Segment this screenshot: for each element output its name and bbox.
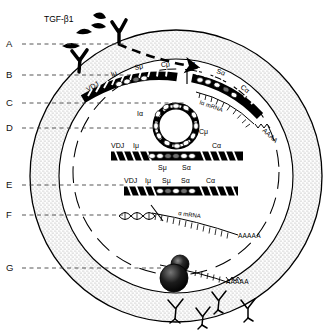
stage-letter-c: C [6, 97, 13, 108]
circle-label-cmu: Cμ [199, 128, 208, 136]
tgf-beta-ligand-group: TGF-β1 [44, 13, 106, 49]
segment-label-vdj: VDJ [111, 142, 124, 149]
ligand-crescent [91, 23, 106, 29]
segment-label-vdj: VDJ [124, 177, 137, 184]
segment-label-salpha: Sα [182, 164, 191, 171]
polya-tail: AAAAA [226, 278, 249, 285]
figure-canvas: TGF-β1 VDJ Iμ [0, 0, 334, 331]
cell-diagram: TGF-β1 VDJ Iμ [0, 0, 334, 331]
circle-label-ialpha: Iα [137, 110, 143, 117]
stage-letter-d: D [6, 122, 13, 133]
ligand-crescent [93, 13, 106, 19]
segment-label-ialpha: Iα [189, 60, 195, 67]
segment-label-imu: Iμ [133, 142, 139, 150]
stage-letter-f: F [6, 209, 12, 220]
ligand-crescent [76, 29, 92, 35]
tgf-beta1-label: TGF-β1 [44, 14, 74, 24]
ribosome-large-subunit [160, 264, 188, 292]
stage-letter-b: B [6, 69, 12, 80]
segment-label-imu: Iμ [145, 177, 151, 185]
stage-letter-e: E [6, 179, 12, 190]
segment-label-calpha: Cα [206, 177, 215, 184]
stage-letter-g: G [6, 262, 13, 273]
segment-label-smu: Sμ [158, 164, 167, 172]
segment-label-calpha: Cα [212, 142, 221, 149]
segment-label-smu: Sμ [162, 177, 171, 185]
segment-label-salpha: Sα [181, 177, 190, 184]
polya-tail: AAAAA [238, 232, 261, 239]
stage-letter-a: A [6, 38, 12, 49]
